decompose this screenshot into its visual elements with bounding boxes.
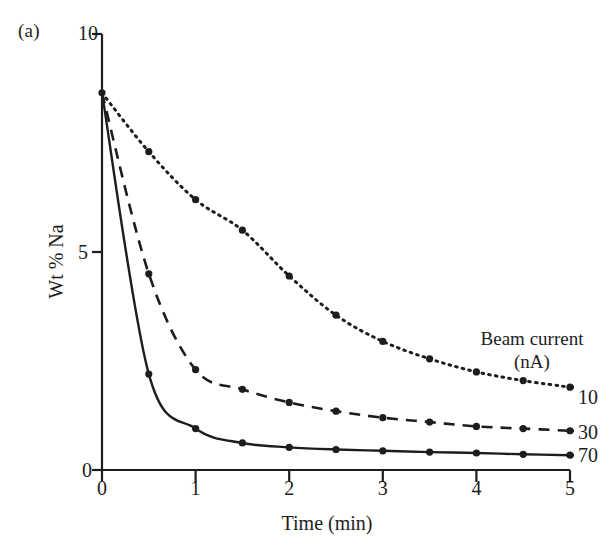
x-tick-marks: [102, 470, 570, 482]
data-series: [98, 89, 574, 459]
data-point: [379, 338, 386, 345]
legend-samples: [570, 387, 574, 455]
data-point: [192, 425, 199, 432]
data-point: [426, 449, 433, 456]
data-point: [473, 423, 480, 430]
y-tick-marks: [92, 34, 102, 470]
legend-title-line2: (nA): [514, 351, 550, 372]
panel-label: (a): [18, 20, 40, 42]
axes: [92, 34, 570, 482]
data-point: [520, 377, 527, 384]
data-point: [379, 447, 386, 454]
data-point: [473, 449, 480, 456]
y-tick-label-5: 5: [78, 241, 88, 264]
data-point: [286, 399, 293, 406]
series-label-70: 70: [578, 444, 598, 467]
chart-canvas: [0, 0, 616, 556]
data-point: [332, 408, 339, 415]
series-label-30: 30: [578, 421, 598, 444]
x-tick-label-3: 3: [368, 477, 398, 500]
x-axis-title-text: Time (min): [282, 512, 373, 535]
series-30: [102, 93, 574, 435]
data-point: [239, 386, 246, 393]
data-point: [192, 366, 199, 373]
data-point: [286, 272, 293, 279]
data-point: [239, 227, 246, 234]
data-point: [332, 446, 339, 453]
figure-panel-a: (a) 10 5 0 0 1 2 3 4 5 Time (min) Wt % N…: [0, 0, 616, 556]
data-point: [192, 196, 199, 203]
legend-title-line1: Beam current: [481, 328, 584, 349]
x-tick-label-4: 4: [461, 477, 491, 500]
legend-title: Beam current (nA): [452, 327, 612, 373]
x-tick-label-1: 1: [181, 477, 211, 500]
data-point: [145, 148, 152, 155]
data-point: [426, 355, 433, 362]
series-line-70: [102, 93, 570, 455]
data-point: [426, 418, 433, 425]
data-point: [520, 451, 527, 458]
series-70: [102, 93, 574, 459]
series-line-30: [102, 93, 570, 431]
y-axis-title: Wt % Na: [45, 192, 68, 332]
data-point: [332, 312, 339, 319]
series-label-10: 10: [578, 386, 598, 409]
data-point: [379, 414, 386, 421]
x-tick-label-2: 2: [274, 477, 304, 500]
x-axis-title: Time (min): [0, 512, 616, 535]
data-point: [239, 439, 246, 446]
data-point: [286, 444, 293, 451]
data-point: [145, 370, 152, 377]
x-tick-label-5: 5: [555, 477, 585, 500]
data-point: [520, 425, 527, 432]
y-tick-label-10: 10: [78, 22, 98, 45]
x-tick-label-0: 0: [87, 477, 117, 500]
data-point: [145, 270, 152, 277]
